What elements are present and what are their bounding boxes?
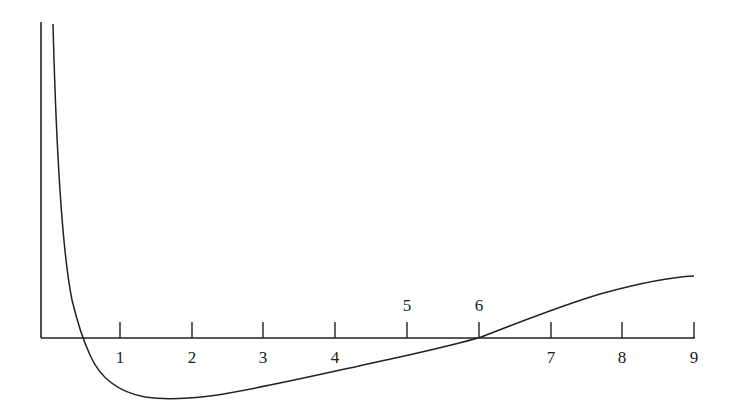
tick-label-6: 6 — [475, 296, 484, 315]
tick-label-4: 4 — [331, 348, 340, 367]
tick-label-5: 5 — [403, 296, 412, 315]
x-ticks — [120, 322, 694, 338]
tick-label-3: 3 — [259, 348, 268, 367]
tick-label-8: 8 — [618, 348, 627, 367]
tick-label-7: 7 — [547, 348, 556, 367]
tick-label-9: 9 — [690, 348, 699, 367]
tick-label-2: 2 — [188, 348, 197, 367]
chart: 1 2 3 4 5 6 7 8 9 — [0, 0, 730, 411]
potential-curve — [53, 24, 694, 399]
tick-label-1: 1 — [116, 348, 125, 367]
